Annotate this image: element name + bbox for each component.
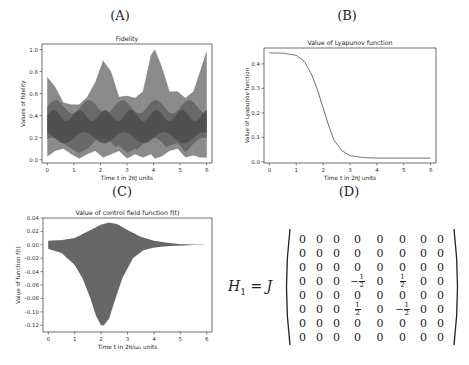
y-tick-label: 0.04 [27,215,40,221]
x-axis-label: Time t in 2π/ω₁ units [97,344,158,350]
matrix-cell: 0 [311,248,328,259]
matrix-cell: 0 [294,290,311,301]
matrix-cell: 0 [328,290,345,301]
matrix-cell: 0 [294,276,311,287]
left-paren-icon [282,228,292,346]
matrix-cell: 0 [415,276,432,287]
matrix-cell: 12 [345,302,370,317]
matrix-lhs: H1 = J [228,278,272,297]
matrix-cell: 12 [390,274,415,289]
matrix-cell: 0 [328,234,345,245]
matrix-cell: 0 [345,234,370,245]
matrix-cell: 0 [311,318,328,329]
matrix-row: 00000000 [294,288,454,302]
matrix-cell: 0 [345,332,370,343]
matrix-cell: 0 [390,262,415,273]
matrix-cell: 0 [345,318,370,329]
x-tick-label: 1 [73,336,77,342]
matrix-row: 000120−1200 [294,302,454,316]
matrix-cell: 0 [370,290,390,301]
y-axis-label: Value of function f(t) [15,246,21,303]
matrix-cell: 0 [432,318,449,329]
matrix-cell: 0 [345,290,370,301]
matrix-cell: 0 [390,234,415,245]
matrix-cell: 0 [328,304,345,315]
matrix-cell: 0 [390,318,415,329]
matrix-cell: 0 [432,234,449,245]
matrix-cell: 0 [294,318,311,329]
matrix-cell: 0 [345,262,370,273]
matrix-cell: −12 [390,302,415,317]
x-tick-label: 2 [99,336,103,342]
matrix-cell: 0 [328,262,345,273]
hamiltonian-matrix: H1 = J 000000000000000000000000000−12012… [228,228,464,350]
matrix-cell: 0 [311,234,328,245]
x-tick-label: 4 [152,336,156,342]
x-tick-label: 6 [205,336,209,342]
matrix-cell: 0 [370,276,390,287]
matrix-cell: 0 [370,318,390,329]
matrix-cell: 0 [415,304,432,315]
matrix-cell: 0 [328,276,345,287]
matrix-cell: 0 [415,262,432,273]
y-tick-label: -0.12 [25,322,39,328]
matrix-cell: 0 [311,290,328,301]
matrix-row: 00000000 [294,260,454,274]
x-tick-label: 0 [47,336,51,342]
y-tick-label: 0.02 [27,228,39,234]
matrix-cell: 0 [294,234,311,245]
matrix-row: 00000000 [294,246,454,260]
matrix-cell: 0 [311,276,328,287]
x-tick-label: 3 [126,336,130,342]
y-tick-label: -0.04 [25,269,40,275]
matrix-row: 000−1201200 [294,274,454,288]
matrix-cell: 0 [415,290,432,301]
matrix-cell: 0 [390,332,415,343]
matrix-cell: 0 [370,262,390,273]
y-tick-label: -0.10 [25,309,40,315]
matrix-cell: 0 [328,318,345,329]
matrix-cell: 0 [432,262,449,273]
matrix-row: 00000000 [294,330,454,344]
x-tick-label: 5 [179,336,183,342]
y-tick-label: 0.00 [27,242,40,248]
matrix-cell: 0 [370,332,390,343]
matrix-cell: 0 [294,332,311,343]
matrix-cell: 0 [294,262,311,273]
matrix-cell: −12 [345,274,370,289]
matrix-row: 00000000 [294,316,454,330]
matrix-cell: 0 [432,304,449,315]
matrix-cell: 0 [415,332,432,343]
chart-title: Value of control field function f(t) [75,209,179,216]
matrix-cell: 0 [432,332,449,343]
matrix-factor: J [267,278,273,294]
matrix-cell: 0 [415,234,432,245]
y-tick-label: -0.02 [25,255,39,261]
matrix-cell: 0 [415,318,432,329]
matrix-grid: 000000000000000000000000000−120120000000… [294,232,454,344]
matrix-cell: 0 [294,304,311,315]
matrix-cell: 0 [370,304,390,315]
matrix-cell: 0 [328,332,345,343]
right-paren-icon [452,228,462,346]
matrix-cell: 0 [311,304,328,315]
matrix-cell: 0 [390,248,415,259]
matrix-cell: 0 [328,248,345,259]
matrix-cell: 0 [415,248,432,259]
matrix-lhs-symbol: H [228,278,240,294]
matrix-cell: 0 [370,248,390,259]
matrix-cell: 0 [432,290,449,301]
matrix-cell: 0 [311,262,328,273]
matrix-cell: 0 [311,332,328,343]
matrix-cell: 0 [432,248,449,259]
matrix-cell: 0 [390,290,415,301]
matrix-cell: 0 [370,234,390,245]
matrix-cell: 0 [345,248,370,259]
matrix-row: 00000000 [294,232,454,246]
matrix-lhs-subscript: 1 [240,287,246,297]
matrix-cell: 0 [294,248,311,259]
y-tick-label: -0.06 [25,282,40,288]
matrix-cell: 0 [432,276,449,287]
y-tick-label: -0.08 [25,295,40,301]
